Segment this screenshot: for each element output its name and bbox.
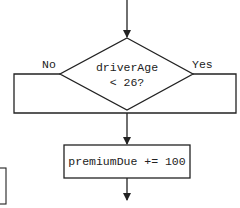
arrowhead-icon bbox=[123, 137, 131, 145]
no-branch-label: No bbox=[42, 58, 56, 71]
arrowhead-icon bbox=[123, 30, 131, 38]
decision-diamond bbox=[60, 38, 193, 110]
decision-line-1: driverAge bbox=[96, 61, 158, 74]
yes-branch-label: Yes bbox=[192, 58, 213, 71]
flowchart-canvas: driverAge < 26? No Yes premiumDue += 100 bbox=[0, 0, 240, 208]
decision-line-2: < 26? bbox=[110, 76, 145, 89]
partial-box bbox=[0, 168, 6, 204]
process-label: premiumDue += 100 bbox=[68, 155, 185, 168]
arrowhead-icon bbox=[123, 193, 131, 201]
